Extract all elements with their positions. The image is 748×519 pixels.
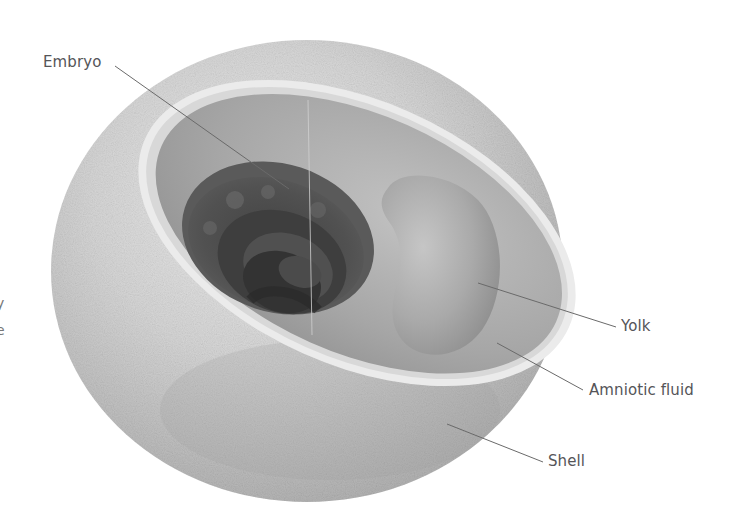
label-yolk: Yolk (621, 317, 651, 335)
label-embryo: Embryo (43, 53, 101, 71)
amniotic-egg-diagram (0, 0, 748, 519)
label-shell: Shell (548, 452, 585, 470)
label-amniotic-fluid: Amniotic fluid (589, 381, 694, 399)
edge-text-fragment: e (0, 322, 5, 338)
edge-text-fragment: y (0, 295, 4, 311)
